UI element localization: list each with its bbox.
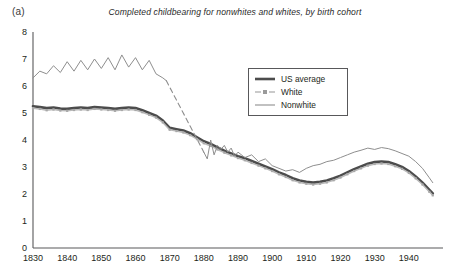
white-marker — [339, 176, 341, 178]
series-line-4 — [204, 140, 433, 183]
white-marker — [278, 173, 280, 175]
white-marker — [189, 134, 191, 136]
legend-swatch-us-average — [254, 74, 276, 84]
series-line-2 — [33, 55, 166, 81]
white-marker — [203, 142, 205, 144]
white-marker — [380, 162, 382, 164]
white-marker — [237, 157, 239, 159]
legend-item-us-average: US average — [254, 72, 342, 85]
white-marker — [230, 154, 232, 156]
white-marker — [39, 108, 41, 110]
x-tick-1830: 1830 — [23, 253, 43, 263]
legend-label-nonwhite: Nonwhite — [281, 100, 316, 110]
white-marker — [428, 191, 430, 193]
y-tick-4: 4 — [22, 135, 27, 145]
legend-label-white: White — [281, 87, 302, 97]
white-marker — [387, 163, 389, 165]
white-marker — [374, 163, 376, 165]
y-tick-labels: 012345678 — [22, 27, 27, 253]
white-marker — [121, 109, 123, 111]
y-tick-2: 2 — [22, 189, 27, 199]
white-marker — [285, 176, 287, 178]
white-marker — [271, 170, 273, 172]
white-marker — [66, 110, 68, 112]
white-marker — [367, 165, 369, 167]
plot-area: 012345678 183018401850186018701880189019… — [0, 0, 454, 277]
x-tick-1880: 1880 — [194, 253, 214, 263]
white-marker — [353, 170, 355, 172]
x-tick-1910: 1910 — [296, 253, 316, 263]
y-tick-3: 3 — [22, 162, 27, 172]
white-marker — [346, 173, 348, 175]
white-marker — [107, 109, 109, 111]
white-marker — [59, 109, 61, 111]
x-tick-1840: 1840 — [57, 253, 77, 263]
white-marker — [100, 108, 102, 110]
white-marker — [32, 107, 34, 109]
x-tick-1870: 1870 — [160, 253, 180, 263]
white-marker — [141, 111, 143, 113]
white-marker — [292, 179, 294, 181]
x-tick-1900: 1900 — [262, 253, 282, 263]
x-tick-1890: 1890 — [228, 253, 248, 263]
white-marker — [394, 165, 396, 167]
white-marker — [169, 129, 171, 131]
y-tick-7: 7 — [22, 54, 27, 64]
axes — [33, 32, 443, 248]
white-marker — [114, 110, 116, 112]
y-tick-1: 1 — [22, 216, 27, 226]
white-marker — [46, 109, 48, 111]
white-marker — [93, 108, 95, 110]
legend-swatch-white — [254, 87, 276, 97]
white-marker — [52, 108, 54, 110]
white-marker — [155, 116, 157, 118]
white-marker — [319, 183, 321, 185]
series-layer — [32, 55, 434, 197]
white-marker — [298, 181, 300, 183]
legend-label-us-average: US average — [281, 74, 325, 84]
white-marker — [264, 167, 266, 169]
white-marker — [326, 181, 328, 183]
white-marker — [162, 121, 164, 123]
white-marker — [80, 108, 82, 110]
white-marker — [415, 177, 417, 179]
y-tick-6: 6 — [22, 81, 27, 91]
white-marker — [87, 109, 89, 111]
white-marker — [312, 183, 314, 185]
legend-item-white: White — [254, 85, 342, 98]
white-marker — [244, 159, 246, 161]
white-marker — [223, 152, 225, 154]
white-marker — [360, 167, 362, 169]
white-marker — [251, 162, 253, 164]
x-tick-1920: 1920 — [330, 253, 350, 263]
white-marker — [134, 109, 136, 111]
chart-figure: (a) Completed childbearing for nonwhites… — [0, 0, 454, 277]
white-marker — [257, 165, 259, 167]
y-tick-0: 0 — [22, 243, 27, 253]
x-tick-labels: 1830184018501860187018801890190019101920… — [23, 253, 419, 263]
white-marker — [148, 114, 150, 116]
x-tick-1930: 1930 — [365, 253, 385, 263]
white-marker — [401, 168, 403, 170]
white-marker — [175, 130, 177, 132]
white-marker — [73, 109, 75, 111]
x-tick-1850: 1850 — [91, 253, 111, 263]
white-marker — [128, 108, 130, 110]
white-marker — [421, 183, 423, 185]
legend-item-nonwhite: Nonwhite — [254, 98, 342, 111]
white-marker — [196, 138, 198, 140]
legend-swatch-nonwhite — [254, 100, 276, 110]
y-tick-8: 8 — [22, 27, 27, 37]
white-marker — [432, 194, 434, 196]
series-line-0 — [33, 106, 433, 193]
white-marker — [408, 172, 410, 174]
y-tick-5: 5 — [22, 108, 27, 118]
x-tick-1860: 1860 — [125, 253, 145, 263]
chart-legend: US average White Nonwhite — [248, 68, 348, 116]
white-marker — [305, 183, 307, 185]
series-line-3 — [166, 81, 204, 153]
white-marker — [333, 179, 335, 181]
white-marker — [182, 131, 184, 133]
x-tick-1940: 1940 — [399, 253, 419, 263]
